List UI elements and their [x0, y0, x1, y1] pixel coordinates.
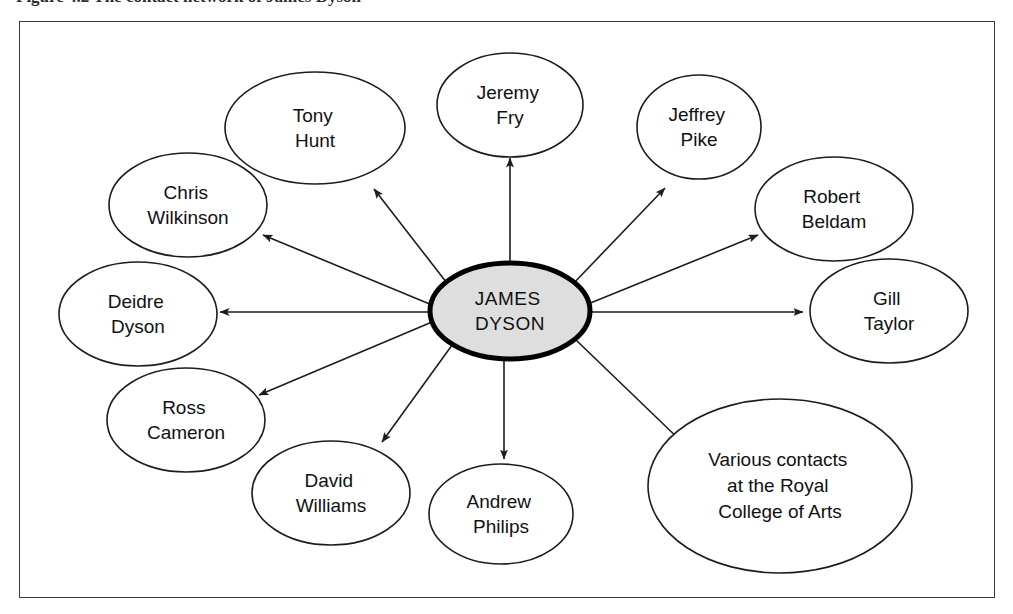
node-robert-beldam[interactable]: Robert Beldam: [755, 157, 913, 261]
node-ellipse-robert-beldam[interactable]: [755, 157, 913, 261]
figure-page: Figure 4.2 The contact network of James …: [0, 0, 1013, 614]
node-ellipse-chris-wilkinson[interactable]: [109, 153, 267, 257]
node-ellipse-jeremy-fry[interactable]: [437, 53, 583, 157]
node-chris-wilkinson[interactable]: Chris Wilkinson: [109, 153, 267, 257]
contact-network-diagram: Tony Hunt Jeremy Fry Jeffrey Pike: [20, 22, 994, 597]
node-david-williams[interactable]: David Williams: [252, 441, 410, 545]
figure-caption-text: Figure 4.2 The contact network of James …: [0, 0, 1013, 7]
node-gill-taylor[interactable]: Gill Taylor: [810, 259, 968, 363]
node-ellipse-david-williams[interactable]: [252, 441, 410, 545]
node-tony-hunt[interactable]: Tony Hunt: [225, 72, 405, 184]
node-ellipse-andrew-philips[interactable]: [429, 464, 573, 564]
node-label-royal-college: Various contacts at the Royal College of…: [708, 449, 852, 522]
spoke-to-chris-wilkinson: [263, 235, 432, 305]
node-deidre-dyson[interactable]: Deidre Dyson: [59, 262, 217, 366]
node-ellipse-ross-cameron[interactable]: [107, 368, 265, 472]
spoke-to-ross-cameron: [259, 322, 432, 395]
spoke-to-jeffrey-pike: [571, 188, 665, 286]
node-james-dyson-center[interactable]: JAMES DYSON: [430, 263, 590, 359]
node-jeffrey-pike[interactable]: Jeffrey Pike: [637, 75, 761, 179]
spoke-to-royal-college: [576, 340, 684, 444]
figure-caption-strip: Figure 4.2 The contact network of James …: [0, 0, 1013, 9]
node-ellipse-deidre-dyson[interactable]: [59, 262, 217, 366]
spoke-to-david-williams: [382, 341, 455, 442]
spoke-to-tony-hunt: [374, 189, 450, 287]
spoke-to-robert-beldam: [588, 235, 758, 304]
node-ellipse-tony-hunt[interactable]: [225, 72, 405, 184]
node-ellipse-gill-taylor[interactable]: [810, 259, 968, 363]
figure-frame-border: Tony Hunt Jeremy Fry Jeffrey Pike: [19, 21, 995, 598]
node-andrew-philips[interactable]: Andrew Philips: [429, 464, 573, 564]
node-group: Tony Hunt Jeremy Fry Jeffrey Pike: [59, 53, 968, 573]
node-ross-cameron[interactable]: Ross Cameron: [107, 368, 265, 472]
node-ellipse-jeffrey-pike[interactable]: [637, 75, 761, 179]
node-royal-college[interactable]: Various contacts at the Royal College of…: [648, 399, 912, 573]
node-jeremy-fry[interactable]: Jeremy Fry: [437, 53, 583, 157]
node-ellipse-james-dyson[interactable]: [430, 263, 590, 359]
